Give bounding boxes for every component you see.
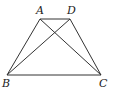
side-DC xyxy=(70,19,101,75)
side-AB xyxy=(7,19,40,75)
vertex-labels: A D B C xyxy=(1,4,108,90)
vertex-label-d: D xyxy=(66,4,76,17)
vertex-label-b: B xyxy=(1,77,10,90)
vertex-label-a: A xyxy=(35,4,44,17)
segments xyxy=(7,19,101,75)
diagonal-AC xyxy=(40,19,101,75)
vertex-label-c: C xyxy=(99,77,108,90)
trapezoid-diagram: A D B C xyxy=(0,0,114,91)
diagonal-BD xyxy=(7,19,70,75)
